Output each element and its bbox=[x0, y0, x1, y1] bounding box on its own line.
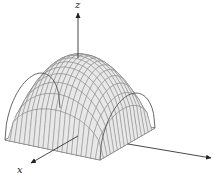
y-axis bbox=[128, 144, 211, 158]
x-axis-label: x bbox=[17, 165, 23, 175]
surface-plot bbox=[0, 0, 215, 179]
dome-surface bbox=[5, 54, 155, 160]
z-axis-label: z bbox=[75, 0, 80, 10]
